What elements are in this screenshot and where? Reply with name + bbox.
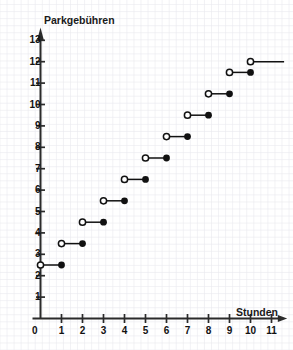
y-axis-tick-2: 2 xyxy=(28,270,41,281)
x-axis-tick-6: 6 xyxy=(160,325,174,336)
x-axis-tick-3: 3 xyxy=(97,325,111,336)
y-axis-tick-4: 4 xyxy=(28,227,41,238)
x-axis-tick-11: 11 xyxy=(265,325,279,336)
y-axis-tick-13: 13 xyxy=(21,34,41,45)
y-axis-tick-9: 9 xyxy=(28,120,41,131)
y-axis-tick-5: 5 xyxy=(28,206,41,217)
x-axis-tick-8: 8 xyxy=(202,325,216,336)
chart-plot-area xyxy=(0,0,293,350)
step-function-chart: Parkgebühren Stunden 1234567891011121312… xyxy=(0,0,293,350)
y-axis-title: Parkgebühren xyxy=(44,14,115,26)
y-axis-tick-7: 7 xyxy=(28,163,41,174)
x-axis-tick-5: 5 xyxy=(139,325,153,336)
y-axis-tick-3: 3 xyxy=(28,248,41,259)
y-axis-tick-1: 1 xyxy=(28,291,41,302)
x-axis-tick-2: 2 xyxy=(76,325,90,336)
x-axis-tick-9: 9 xyxy=(223,325,237,336)
y-axis-tick-6: 6 xyxy=(28,184,41,195)
x-axis-tick-4: 4 xyxy=(118,325,132,336)
origin-tick-label: 0 xyxy=(27,325,38,336)
x-axis-tick-1: 1 xyxy=(55,325,69,336)
y-axis-tick-8: 8 xyxy=(28,141,41,152)
x-axis-tick-10: 10 xyxy=(244,325,258,336)
y-axis-tick-12: 12 xyxy=(21,56,41,67)
x-axis-title: Stunden xyxy=(236,306,278,318)
y-axis-tick-11: 11 xyxy=(21,77,41,88)
y-axis-tick-10: 10 xyxy=(21,99,41,110)
x-axis-tick-7: 7 xyxy=(181,325,195,336)
